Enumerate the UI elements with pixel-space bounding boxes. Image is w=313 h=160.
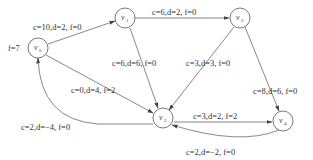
edge-v4-v2 [172,125,279,137]
svg-text:v: v [121,13,125,22]
node-v4: v 4 [273,111,293,131]
svg-text:v: v [236,13,240,22]
edge-label-v3-v4: c=8,d=6, f=0 [253,86,297,96]
edge-label-v2-v4: c=3,d=2, f=2 [193,111,237,121]
svg-text:v: v [34,43,38,52]
node-v0: v 0 [28,38,48,58]
edge-label-v0-v1: c=10,d=2, f=0 [33,22,82,32]
node-v2: v 2 [153,108,173,128]
edge-v3-v2 [169,27,234,110]
edge-label-v0-v2: c=0,d=4, f=2 [71,85,115,95]
node-v3: v 3 [230,8,250,28]
edge-v1-v2 [130,28,158,108]
svg-text:v: v [159,113,163,122]
svg-text:v: v [279,116,283,125]
edge-v3-v4 [245,27,279,111]
edge-label-v1-v3: c=6,d=2, f=0 [152,7,196,17]
edge-label-v2-v0: c=2,d=−4, f=0 [21,122,70,132]
edge-label-v1-v2: c=6,d=6, f=0 [112,58,156,68]
source-flow-label: f=7 [8,43,20,53]
node-v1: v 1 [115,8,135,28]
flow-network-diagram: c=10,d=2, f=0 c=6,d=2, f=0 c=6,d=6, f=0 … [0,0,313,160]
edge-label-v3-v2: c=3,d=3, f=0 [186,58,230,68]
edge-label-v4-v2: c=2,d=−2, f=0 [186,147,235,157]
